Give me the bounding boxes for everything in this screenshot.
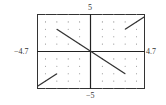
x-min-label: −4.7 [14, 48, 29, 56]
x-max-label: 4.7 [146, 48, 156, 56]
curve-segment [125, 17, 144, 30]
y-max-label: 5 [88, 4, 92, 12]
curve-segment [38, 74, 57, 87]
y-min-label: −5 [86, 92, 95, 100]
